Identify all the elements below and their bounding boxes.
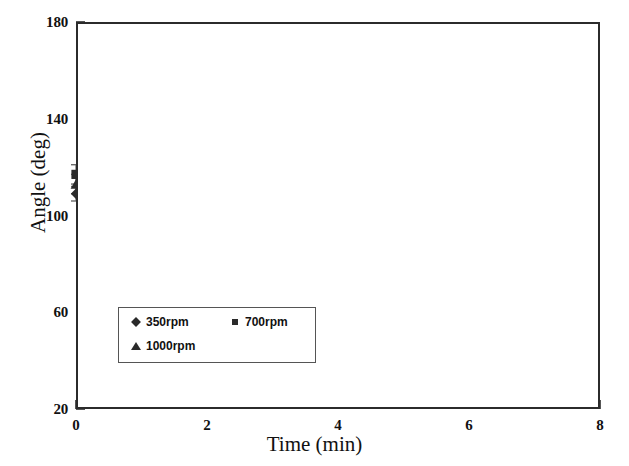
- y-tick-label-60: 60: [28, 304, 68, 321]
- y-tick-label-20: 20: [28, 401, 68, 418]
- y-tick-label-180: 180: [28, 14, 68, 31]
- legend-entry-350rpm: 350rpm: [130, 316, 189, 328]
- chart-legend: 350rpm 700rpm 1000rpm: [118, 307, 316, 363]
- diamond-marker-icon: [130, 317, 141, 328]
- x-axis-title: Time (min): [0, 432, 629, 457]
- legend-label-350rpm: 350rpm: [146, 316, 189, 328]
- legend-entry-1000rpm: 1000rpm: [130, 340, 195, 352]
- square-marker-icon: [229, 317, 240, 328]
- triangle-marker-icon: [130, 341, 141, 352]
- y-axis-title: Angle (deg): [26, 83, 51, 283]
- legend-entry-700rpm: 700rpm: [229, 316, 288, 328]
- chart-figure: 180 140 100 60 20 0 2 4 6 8 Angle (deg) …: [0, 0, 629, 466]
- legend-label-1000rpm: 1000rpm: [146, 340, 195, 352]
- legend-label-700rpm: 700rpm: [245, 316, 288, 328]
